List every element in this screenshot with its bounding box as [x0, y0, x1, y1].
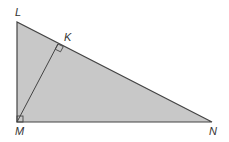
label-l: L [15, 6, 21, 18]
label-m: M [15, 125, 25, 137]
triangle-lmn [17, 22, 212, 122]
triangle-diagram: L K M N [0, 0, 229, 142]
label-k: K [64, 31, 72, 43]
label-n: N [209, 125, 217, 137]
